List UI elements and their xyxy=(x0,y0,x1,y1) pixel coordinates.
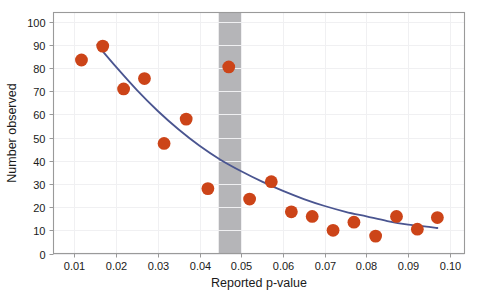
data-point xyxy=(201,182,214,195)
y-tick-label: 50 xyxy=(33,133,45,145)
data-point xyxy=(327,224,340,237)
x-tick-label: 0.03 xyxy=(148,260,169,272)
y-tick-label: 0 xyxy=(39,249,45,261)
y-tick-label: 70 xyxy=(33,86,45,98)
figure-container: 0.010.020.030.040.050.060.070.080.090.10… xyxy=(0,0,484,304)
data-point xyxy=(158,137,171,150)
y-tick-label: 20 xyxy=(33,202,45,214)
data-point xyxy=(369,230,382,243)
x-tick-label: 0.10 xyxy=(440,260,461,272)
y-tick-label: 100 xyxy=(27,17,45,29)
y-tick-label: 30 xyxy=(33,179,45,191)
data-point xyxy=(411,223,424,236)
data-point xyxy=(117,83,130,96)
data-point xyxy=(243,193,256,206)
y-tick-label: 10 xyxy=(33,225,45,237)
data-point xyxy=(285,205,298,218)
data-point xyxy=(180,113,193,126)
y-tickmarks xyxy=(50,23,54,255)
x-tick-label: 0.05 xyxy=(231,260,252,272)
data-point xyxy=(390,210,403,223)
x-tick-labels: 0.010.020.030.040.050.060.070.080.090.10 xyxy=(64,260,461,272)
plot-area-background xyxy=(54,13,465,254)
data-point xyxy=(96,40,109,53)
y-tick-label: 80 xyxy=(33,63,45,75)
data-point xyxy=(222,61,235,74)
data-point xyxy=(138,72,151,85)
x-axis-label: Reported p-value xyxy=(211,276,307,290)
y-axis-label: Number observed xyxy=(5,83,19,182)
data-point xyxy=(265,175,278,188)
y-tick-labels: 0102030405060708090100 xyxy=(27,17,45,261)
x-tick-label: 0.07 xyxy=(315,260,336,272)
y-tick-label: 90 xyxy=(33,40,45,52)
scatter-chart: 0.010.020.030.040.050.060.070.080.090.10… xyxy=(0,0,484,304)
data-point xyxy=(75,54,88,67)
x-tick-label: 0.02 xyxy=(106,260,127,272)
y-tick-label: 60 xyxy=(33,109,45,121)
x-tick-label: 0.09 xyxy=(398,260,419,272)
data-point xyxy=(348,216,361,229)
data-point xyxy=(306,210,319,223)
y-tick-label: 40 xyxy=(33,156,45,168)
x-tick-label: 0.08 xyxy=(356,260,377,272)
significance-band xyxy=(219,13,242,254)
data-point xyxy=(431,211,444,224)
x-tick-label: 0.04 xyxy=(190,260,211,272)
x-tick-label: 0.01 xyxy=(64,260,85,272)
x-tick-label: 0.06 xyxy=(273,260,294,272)
